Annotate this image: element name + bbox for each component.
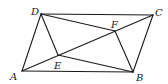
point-label-a: A <box>9 71 17 82</box>
segment-bf <box>115 31 133 72</box>
point-label-b: B <box>135 72 143 83</box>
segment-df <box>41 14 115 31</box>
point-label-c: C <box>155 7 163 18</box>
diagram-edges <box>22 14 153 72</box>
point-label-d: D <box>30 6 39 17</box>
segment-de <box>41 14 58 55</box>
point-label-e: E <box>53 60 62 71</box>
segment-bc <box>133 15 153 72</box>
segment-cd <box>41 14 153 15</box>
segment-be <box>58 55 133 72</box>
segment-da <box>22 14 41 71</box>
segment-ac <box>22 15 153 71</box>
parallelogram-diagram: ABCDEF <box>0 0 168 84</box>
point-label-f: F <box>110 19 119 30</box>
segment-ab <box>22 71 133 72</box>
